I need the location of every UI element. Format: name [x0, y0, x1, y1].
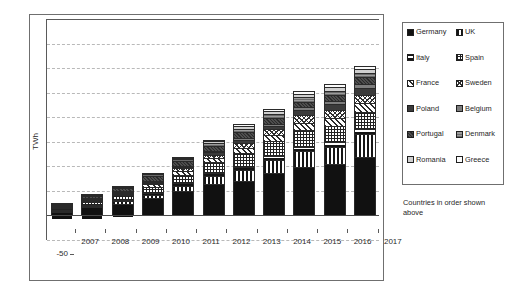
legend-item[interactable]: Portugal — [407, 130, 444, 138]
bar-segment — [204, 185, 224, 216]
bar-segment — [325, 148, 345, 165]
legend-label: France — [416, 79, 439, 87]
bar-stack — [172, 157, 194, 216]
legend-swatch-icon — [407, 29, 414, 36]
legend: GermanyUKItalySpainFranceSwedenPolandBel… — [402, 22, 504, 185]
legend-item[interactable]: Greece — [456, 156, 489, 164]
legend-item[interactable]: Sweden — [456, 79, 492, 87]
bar-stack — [354, 66, 376, 215]
bar-segment — [204, 177, 224, 185]
legend-item[interactable]: France — [407, 79, 439, 87]
bar-segment — [294, 116, 314, 124]
plot-area — [46, 19, 379, 240]
bar-segment — [355, 113, 375, 130]
legend-swatch-icon — [407, 131, 414, 138]
bar-stack — [203, 140, 225, 216]
x-axis-tick-mark — [287, 229, 288, 233]
bar-stack — [112, 186, 134, 215]
bar-stack — [142, 173, 164, 215]
y-axis-tick-mark — [70, 254, 74, 255]
bar-segment — [264, 161, 284, 174]
bar-stack — [324, 84, 346, 215]
bar-segment — [355, 96, 375, 104]
legend-item[interactable]: Italy — [407, 54, 430, 62]
bar-segment — [294, 124, 314, 131]
bar-stack — [81, 194, 103, 216]
legend-item[interactable]: UK — [456, 28, 475, 36]
legend-swatch-icon — [407, 156, 414, 163]
x-axis-tick-mark — [226, 229, 227, 233]
legend-label: Sweden — [465, 79, 492, 87]
bar-segment — [355, 89, 375, 96]
x-axis-tick-mark — [75, 229, 76, 233]
legend-item[interactable]: Poland — [407, 105, 439, 113]
legend-item[interactable]: Spain — [456, 54, 484, 62]
legend-item[interactable]: Belgium — [456, 105, 492, 113]
bar-segment — [82, 208, 102, 218]
bar-segment — [355, 104, 375, 113]
legend-swatch-icon — [407, 105, 414, 112]
bar-segment — [294, 168, 314, 216]
x-axis-tick-mark — [378, 229, 379, 233]
legend-swatch-icon — [407, 80, 414, 87]
legend-label: Denmark — [465, 130, 495, 138]
y-axis-title: TWh — [31, 133, 40, 150]
x-axis-tick-label: 2017 — [373, 237, 413, 246]
legend-label: Italy — [416, 54, 430, 62]
legend-swatch-icon — [456, 54, 463, 61]
y-axis-tick-label: -50 — [56, 250, 68, 258]
bar-series-group — [47, 19, 379, 240]
bar-segment — [173, 192, 193, 217]
bar-segment — [325, 127, 345, 144]
legend-swatch-icon — [407, 54, 414, 61]
legend-swatch-icon — [456, 105, 463, 112]
bar-segment — [173, 176, 193, 184]
legend-swatch-icon — [456, 80, 463, 87]
bar-segment — [143, 199, 163, 217]
bar-segment — [355, 135, 375, 158]
bar-segment — [325, 119, 345, 127]
legend-label: Romania — [416, 156, 446, 164]
bar-segment — [234, 154, 254, 168]
x-axis-tick-mark — [347, 229, 348, 233]
legend-swatch-icon — [456, 29, 463, 36]
legend-label: Belgium — [465, 105, 492, 113]
bar-stack — [293, 91, 315, 215]
bar-stack — [263, 109, 285, 216]
legend-label: Spain — [465, 54, 484, 62]
legend-item[interactable]: Romania — [407, 156, 446, 164]
chart-root: 400350300250200150100500-50 TWh 20072008… — [0, 0, 510, 294]
zero-axis-line — [47, 215, 379, 216]
legend-swatch-icon — [456, 156, 463, 163]
bar-segment — [234, 182, 254, 216]
bar-segment — [204, 163, 224, 173]
x-axis-tick-mark — [105, 229, 106, 233]
x-axis-tick-mark — [257, 229, 258, 233]
bar-segment — [294, 152, 314, 168]
bar-segment — [325, 111, 345, 118]
legend-label: UK — [465, 28, 475, 36]
bar-segment — [264, 142, 284, 157]
bar-segment — [355, 158, 375, 216]
bar-segment — [264, 174, 284, 216]
bar-stack — [233, 124, 255, 215]
x-axis-tick-mark — [196, 229, 197, 233]
bar-segment — [294, 131, 314, 147]
bar-segment — [234, 171, 254, 182]
legend-label: Portugal — [416, 130, 444, 138]
x-axis-tick-mark — [317, 229, 318, 233]
bar-segment — [325, 165, 345, 217]
legend-item[interactable]: Denmark — [456, 130, 495, 138]
legend-label: Greece — [465, 156, 489, 164]
legend-swatch-icon — [456, 131, 463, 138]
legend-label: Germany — [416, 28, 446, 36]
legend-note: Countries in order shown above — [403, 198, 507, 218]
x-axis-tick-mark — [166, 229, 167, 233]
x-axis-tick-mark — [136, 229, 137, 233]
legend-item[interactable]: Germany — [407, 28, 446, 36]
legend-label: Poland — [416, 105, 439, 113]
bar-stack — [51, 203, 73, 215]
